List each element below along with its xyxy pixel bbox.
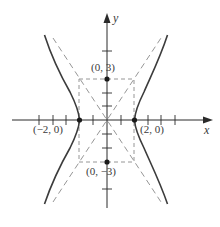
point-0-3: [104, 76, 109, 81]
y-axis-label: y: [113, 12, 118, 24]
point-0-neg3: [104, 159, 109, 164]
x-axis-label: x: [204, 124, 209, 136]
vertex-right: [132, 117, 137, 122]
label-point-0-neg3: (0, −3): [86, 166, 116, 177]
label-point-0-3: (0, 3): [91, 62, 115, 73]
hyperbola-diagram: [0, 0, 220, 227]
y-axis-arrow-icon: [104, 13, 111, 23]
label-vertex-left: (−2, 0): [33, 124, 63, 135]
label-vertex-right: (2, 0): [140, 124, 164, 135]
vertex-left: [77, 117, 82, 122]
